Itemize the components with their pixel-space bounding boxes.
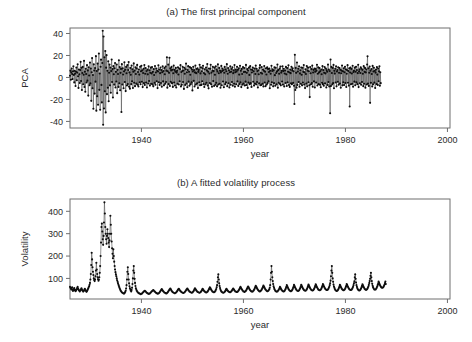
pca-xtick-label: 2000 bbox=[437, 135, 457, 145]
volatility-ytick-label: 200 bbox=[48, 251, 63, 261]
pca-ytick-label: -40 bbox=[50, 117, 63, 127]
pca-xaxis-label: year bbox=[251, 148, 269, 159]
pca-xtick-label: 1960 bbox=[233, 135, 253, 145]
volatility-ytick-label: 400 bbox=[48, 207, 63, 217]
figure-container: (a) The first principal component -40-20… bbox=[0, 0, 472, 342]
volatility-yaxis-label: Volatility bbox=[19, 231, 30, 266]
volatility-xtick-label: 1960 bbox=[233, 306, 253, 316]
volatility-plot: 1002003004001940196019802000yearVolatili… bbox=[0, 171, 472, 342]
pca-yaxis-label: PCA bbox=[19, 68, 30, 88]
pca-xtick-label: 1980 bbox=[335, 135, 355, 145]
panel-volatility: (b) A fitted volatility process 10020030… bbox=[0, 171, 472, 342]
volatility-series-markers bbox=[69, 201, 387, 295]
pca-plot: -40-20020401940196019802000yearPCA bbox=[0, 0, 472, 171]
volatility-xtick-label: 1980 bbox=[335, 306, 355, 316]
pca-ytick-label: 20 bbox=[53, 51, 63, 61]
pca-xtick-label: 1940 bbox=[131, 135, 151, 145]
panel-pca: (a) The first principal component -40-20… bbox=[0, 0, 472, 171]
pca-series-line bbox=[70, 31, 381, 125]
pca-ytick-label: 0 bbox=[58, 73, 63, 83]
volatility-xtick-label: 1940 bbox=[131, 306, 151, 316]
pca-ytick-label: 40 bbox=[53, 29, 63, 39]
volatility-xaxis-label: year bbox=[251, 319, 269, 330]
volatility-ytick-label: 300 bbox=[48, 229, 63, 239]
volatility-ytick-label: 100 bbox=[48, 274, 63, 284]
pca-ytick-label: -20 bbox=[50, 95, 63, 105]
volatility-plot-frame bbox=[70, 199, 450, 299]
volatility-xtick-label: 2000 bbox=[437, 306, 457, 316]
